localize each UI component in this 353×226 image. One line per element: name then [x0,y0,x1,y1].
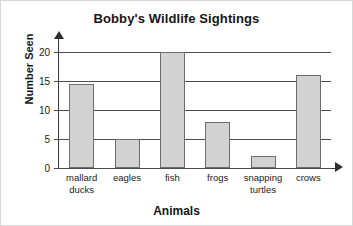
category-label-line: ducks [55,184,108,196]
x-axis-title: Animals [1,204,352,218]
gridline-10 [59,110,331,111]
y-tick-15 [54,81,60,82]
y-axis-title: Number Seen [23,19,35,119]
y-tick-label-0: 0 [44,163,50,174]
bar-chart-figure: Bobby's Wildlife Sightings Number Seen 0… [0,0,353,226]
bar-fish [160,52,185,168]
bar-mallard-ducks [69,84,94,168]
category-label-line: turtles [236,184,289,196]
y-tick-20 [54,52,60,53]
bar-frogs [205,122,230,168]
y-tick-0 [54,168,60,169]
y-tick-10 [54,110,60,111]
chart-title: Bobby's Wildlife Sightings [1,11,352,26]
y-tick-label-20: 20 [39,47,50,58]
gridline-15 [59,81,331,82]
y-tick-5 [54,139,60,140]
category-label-crows: crows [282,172,335,184]
gridline-5 [59,139,331,140]
y-tick-label-10: 10 [39,105,50,116]
y-axis-line [58,38,59,169]
bar-eagles [115,139,140,168]
gridline-20 [59,52,331,53]
plot-area: 05101520 [59,52,331,168]
x-axis-arrow-icon [335,162,343,172]
category-label-line: crows [282,172,335,184]
bar-snapping-turtles [251,156,276,168]
y-tick-label-5: 5 [44,134,50,145]
bar-crows [296,75,321,168]
y-axis-arrow-icon [54,31,64,39]
x-axis-category-labels: mallardduckseaglesfishfrogssnappingturtl… [59,172,331,202]
y-tick-label-15: 15 [39,76,50,87]
gridline-0 [59,168,331,169]
